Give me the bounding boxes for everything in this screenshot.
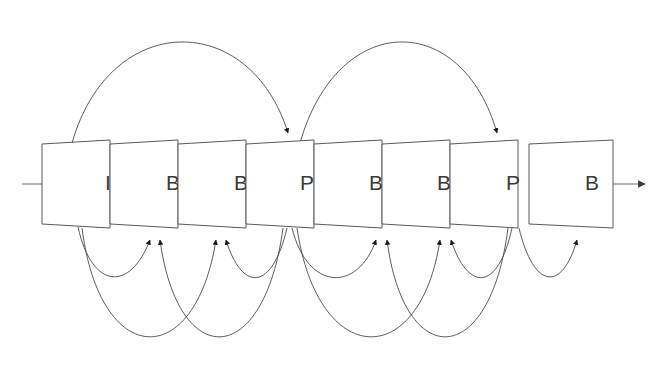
- bottom-arc-group: [78, 227, 577, 337]
- bottom-arc-i-to-b2: [82, 228, 216, 337]
- frame-group: I B B P B B: [42, 140, 613, 228]
- bottom-arc-p2-to-b5: [519, 228, 577, 277]
- top-arc-group: [72, 42, 497, 143]
- frame-label-b3: B: [369, 171, 383, 194]
- frame-label-b4: B: [437, 171, 451, 194]
- frame-2-b[interactable]: B: [178, 140, 248, 228]
- bottom-arc-p1-to-b4: [297, 228, 440, 337]
- bottom-arc-p2-to-b4: [451, 228, 512, 278]
- frame-shape-i: [42, 140, 110, 228]
- frame-label-b5: B: [585, 171, 599, 194]
- bottom-arc-p1-to-b3: [292, 228, 376, 278]
- bottom-arc-i-to-b1: [78, 227, 150, 277]
- frame-label-p1: P: [300, 171, 314, 194]
- frame-3-p[interactable]: P: [246, 140, 314, 228]
- gop-diagram-canvas: I B B P B B: [0, 0, 667, 378]
- bottom-arc-p2-to-b3: [387, 228, 508, 337]
- bottom-arc-p1-to-b2: [226, 228, 287, 278]
- bottom-arc-p1-to-b1: [160, 228, 283, 337]
- frame-6-p[interactable]: P: [450, 140, 520, 228]
- frame-5-b[interactable]: B: [382, 140, 451, 228]
- frame-1-b[interactable]: B: [110, 140, 180, 228]
- frame-label-p2: P: [506, 171, 520, 194]
- frame-0-i[interactable]: I: [42, 140, 111, 228]
- frame-shape-b5: [529, 140, 613, 228]
- frame-7-b[interactable]: B: [529, 140, 613, 228]
- top-arc-i-to-p: [72, 42, 288, 143]
- frame-4-b[interactable]: B: [314, 140, 383, 228]
- top-arc-p-to-p: [300, 42, 497, 143]
- gop-diagram-root: I B B P B B: [0, 0, 667, 378]
